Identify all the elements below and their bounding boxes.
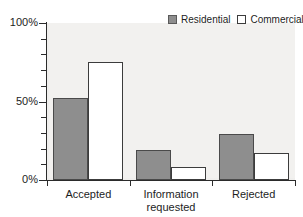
y-tick-major bbox=[39, 180, 46, 181]
bar-commercial-0 bbox=[88, 62, 123, 180]
y-tick-minor bbox=[41, 133, 46, 134]
y-tick-major bbox=[39, 102, 46, 103]
bars-layer bbox=[47, 23, 295, 180]
y-axis-tick-label: 0% bbox=[0, 174, 38, 185]
y-tick-minor bbox=[41, 86, 46, 87]
x-tick bbox=[295, 181, 296, 186]
x-category-label: Accepted bbox=[47, 188, 130, 201]
x-axis-line bbox=[46, 180, 296, 181]
bar-chart: 0%50%100% AcceptedInformation requestedR… bbox=[0, 0, 303, 217]
bar-residential-0 bbox=[53, 98, 88, 180]
x-tick bbox=[130, 181, 131, 186]
y-axis-tick-label: 50% bbox=[0, 96, 38, 107]
y-tick-major bbox=[39, 23, 46, 24]
x-category-label: Rejected bbox=[212, 188, 295, 201]
y-tick-minor bbox=[41, 70, 46, 71]
legend-entry-commercial[interactable]: Commercial bbox=[237, 14, 303, 25]
legend-entry-residential[interactable]: Residential bbox=[168, 14, 230, 25]
y-tick-minor bbox=[41, 117, 46, 118]
y-tick-minor bbox=[41, 39, 46, 40]
legend-label: Residential bbox=[181, 14, 230, 25]
y-axis-tick-label: 100% bbox=[0, 17, 38, 28]
residential-swatch-icon bbox=[168, 15, 177, 24]
x-category-label: Information requested bbox=[130, 188, 213, 213]
y-tick-minor bbox=[41, 164, 46, 165]
y-tick-minor bbox=[41, 54, 46, 55]
x-tick bbox=[212, 181, 213, 186]
chart-legend: ResidentialCommercial bbox=[168, 14, 303, 25]
bar-commercial-1 bbox=[171, 167, 206, 180]
bar-residential-2 bbox=[219, 134, 254, 180]
commercial-swatch-icon bbox=[237, 15, 246, 24]
bar-residential-1 bbox=[136, 150, 171, 180]
y-tick-minor bbox=[41, 149, 46, 150]
legend-label: Commercial bbox=[250, 14, 303, 25]
bar-commercial-2 bbox=[254, 153, 289, 180]
x-tick bbox=[47, 181, 48, 186]
